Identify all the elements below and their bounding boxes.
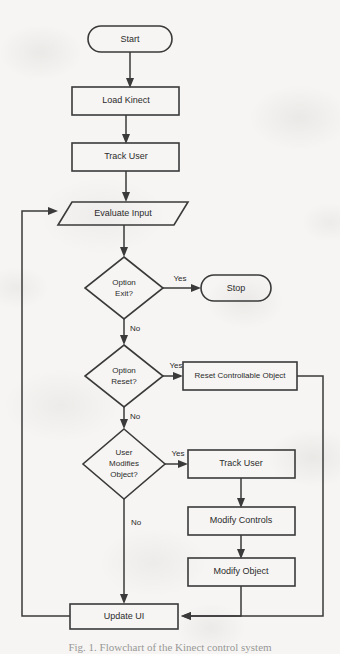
node-evaluate-input[interactable]: Evaluate Input [58, 202, 188, 225]
node-start-label: Start [120, 34, 140, 44]
edge-evaluate-input-to-option-exit [120, 225, 128, 257]
node-modify-object[interactable]: Modify Object [188, 558, 295, 586]
node-modify-object-label: Modify Object [213, 566, 269, 576]
edge-option-exit-no-to-option-reset [120, 319, 128, 345]
figure-page: Stop --> Option Reset? --> Reset Control… [0, 0, 340, 654]
node-load-kinect-label: Load Kinect [102, 95, 150, 105]
edge-label-yes-exit: Yes [173, 274, 186, 283]
node-modify-controls-label: Modify Controls [210, 515, 273, 525]
edge-option-exit-yes-to-stop [163, 284, 201, 292]
node-track-user-1-label: Track User [104, 151, 148, 161]
node-stop[interactable]: Stop [201, 275, 271, 301]
node-update-ui[interactable]: Update UI [70, 604, 178, 629]
node-user-modifies-object-label-line2: Modifies [109, 459, 139, 468]
node-user-modifies-object[interactable]: User Modifies Object? [83, 429, 165, 499]
node-stop-label: Stop [227, 283, 246, 293]
node-reset-controllable-object-label: Reset Controllable Object [194, 371, 286, 380]
edge-label-no-exit: No [130, 324, 141, 333]
node-start[interactable]: Start [88, 26, 172, 52]
node-option-exit[interactable]: Option Exit? [85, 257, 163, 319]
edge-option-reset-yes-to-reset-object [163, 372, 183, 380]
edge-user-modifies-yes-to-track-user [165, 460, 188, 468]
node-option-reset[interactable]: Option Reset? [85, 345, 163, 407]
edge-user-modifies-no-to-update-ui [120, 499, 128, 604]
node-load-kinect[interactable]: Load Kinect [72, 87, 179, 115]
node-option-exit-label-line1: Option [112, 278, 136, 287]
edge-label-yes-reset: Yes [169, 361, 182, 370]
edge-load-kinect-to-track-user [122, 115, 130, 144]
node-track-user-2[interactable]: Track User [188, 450, 295, 478]
edge-start-to-load-kinect [126, 52, 134, 88]
edge-modify-controls-to-modify-object [237, 535, 245, 559]
node-modify-controls[interactable]: Modify Controls [188, 507, 295, 535]
edge-update-ui-to-evaluate-input-loop [22, 207, 70, 616]
flowchart-canvas: Stop --> Option Reset? --> Reset Control… [0, 0, 340, 654]
node-update-ui-label: Update UI [104, 611, 145, 621]
edge-option-reset-no-to-user-modifies [120, 407, 128, 429]
node-option-exit-label-line2: Exit? [115, 289, 133, 298]
node-track-user-2-label: Track User [219, 458, 263, 468]
node-evaluate-input-label: Evaluate Input [94, 208, 152, 218]
node-reset-controllable-object[interactable]: Reset Controllable Object [183, 362, 297, 390]
node-user-modifies-object-label-line1: User [116, 448, 133, 457]
edge-track-user-to-modify-controls [237, 478, 245, 508]
node-option-reset-label-line2: Reset? [111, 377, 137, 386]
node-option-reset-label-line1: Option [112, 366, 136, 375]
edge-label-no-reset: No [130, 412, 141, 421]
edge-label-no-modifies: No [131, 518, 142, 527]
edge-label-yes-modifies: Yes [171, 449, 184, 458]
figure-caption: Fig. 1. Flowchart of the Kinect control … [0, 641, 340, 654]
node-track-user-1[interactable]: Track User [72, 143, 179, 171]
edge-reset-object-to-update-ui [181, 376, 323, 620]
node-user-modifies-object-label-line3: Object? [110, 470, 138, 479]
edge-track-user-to-evaluate-input [122, 171, 130, 202]
